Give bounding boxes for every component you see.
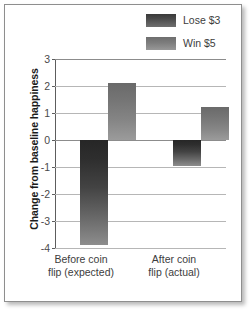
figure-container: Lose $3 Win $5 Change from baseline happ… — [0, 0, 250, 310]
bar-win-5-group-0 — [108, 83, 136, 140]
y-tick-mark-0 — [52, 140, 55, 141]
y-tick-label-2: 2 — [44, 80, 50, 92]
y-tick-label--1: -1 — [41, 161, 50, 173]
y-tick-label--3: -3 — [41, 215, 50, 227]
x-category-label-1-line2: flip (actual) — [119, 266, 229, 279]
y-tick-label-0: 0 — [44, 134, 50, 146]
legend-label-lose: Lose $3 — [183, 14, 220, 27]
y-tick-mark-2 — [52, 86, 55, 87]
y-tick-label-3: 3 — [44, 53, 50, 65]
x-category-label-1-line1: After coin — [152, 253, 196, 265]
legend-item-lose: Lose $3 — [146, 12, 242, 29]
legend-item-win: Win $5 — [146, 35, 242, 52]
x-category-label-0-line1: Before coin — [54, 253, 107, 265]
legend-swatch-lose-icon — [146, 14, 176, 27]
chart-legend: Lose $3 Win $5 — [146, 12, 242, 58]
x-category-label-1: After coin flip (actual) — [119, 253, 229, 279]
y-axis-title: Change from baseline happiness — [28, 54, 40, 244]
y-tick-mark--3 — [52, 221, 55, 222]
gridline--4 — [55, 248, 226, 249]
y-tick-mark--1 — [52, 167, 55, 168]
y-tick-mark-1 — [52, 113, 55, 114]
y-tick-mark-3 — [52, 59, 55, 60]
legend-swatch-win-icon — [146, 37, 176, 50]
y-tick-label--2: -2 — [41, 188, 50, 200]
y-tick-mark--2 — [52, 194, 55, 195]
bar-lose-3-group-1 — [173, 140, 201, 166]
bar-win-5-group-1 — [201, 107, 229, 140]
gridline-2 — [55, 86, 226, 87]
legend-label-win: Win $5 — [183, 37, 216, 50]
plot-area: 3210-1-2-3-4 — [55, 59, 226, 248]
y-tick-label-1: 1 — [44, 107, 50, 119]
gridline-3 — [55, 59, 226, 60]
bar-lose-3-group-0 — [80, 140, 108, 245]
y-tick-mark--4 — [52, 248, 55, 249]
